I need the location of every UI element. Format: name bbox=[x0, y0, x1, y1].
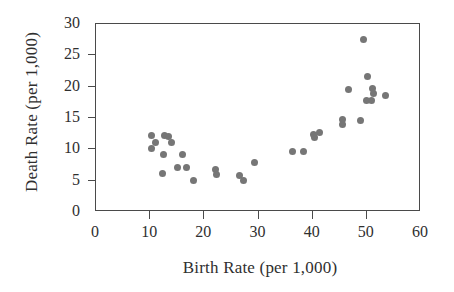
x-axis-tick-label: 20 bbox=[183, 223, 223, 241]
y-axis-tick-label: 10 bbox=[40, 140, 80, 156]
plot-area-frame bbox=[95, 23, 420, 211]
x-axis-tick bbox=[258, 211, 259, 219]
x-axis-tick bbox=[149, 211, 150, 219]
x-axis-tick-label: 10 bbox=[129, 223, 169, 241]
scatter-plot-figure: Death Rate (per 1,000) Birth Rate (per 1… bbox=[0, 0, 454, 292]
y-axis-tick-label: 30 bbox=[40, 15, 80, 31]
y-axis-tick-label: 25 bbox=[40, 46, 80, 62]
x-axis-tick-label: 50 bbox=[346, 223, 386, 241]
x-axis-tick-label: 0 bbox=[75, 223, 115, 241]
y-axis-tick-label: 15 bbox=[40, 109, 80, 125]
y-axis-tick-label: 20 bbox=[40, 78, 80, 94]
x-axis-tick-label: 40 bbox=[292, 223, 332, 241]
y-axis-tick-label: 0 bbox=[40, 203, 80, 219]
x-axis-tick-label: 30 bbox=[238, 223, 278, 241]
x-axis-tick-label: 60 bbox=[400, 223, 440, 241]
x-axis-tick bbox=[312, 211, 313, 219]
y-axis-title: Death Rate (per 1,000) bbox=[22, 2, 42, 222]
x-axis-title: Birth Rate (per 1,000) bbox=[95, 258, 425, 278]
y-axis-tick-label: 5 bbox=[40, 172, 80, 188]
x-axis-tick bbox=[366, 211, 367, 219]
x-axis-tick bbox=[203, 211, 204, 219]
